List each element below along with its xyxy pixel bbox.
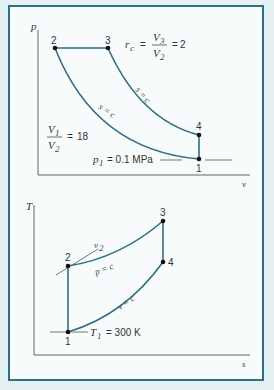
pv-diagram: p v 2 3 4 1 s = c s = c r c = V 3 V 2 = … bbox=[30, 20, 250, 189]
v2-label: v 2 bbox=[94, 240, 104, 253]
svg-text:p: p bbox=[92, 153, 99, 165]
ts-label-2: 2 bbox=[65, 252, 71, 263]
ts-point-4 bbox=[161, 260, 166, 265]
ts-process-4-1 bbox=[68, 262, 163, 332]
svg-text:2: 2 bbox=[180, 39, 186, 50]
svg-text:18: 18 bbox=[77, 131, 89, 142]
pv-label-3: 3 bbox=[105, 35, 111, 46]
svg-text:1: 1 bbox=[55, 128, 60, 138]
ts-label-3: 3 bbox=[160, 207, 166, 218]
svg-text:2: 2 bbox=[99, 243, 104, 253]
svg-text:c: c bbox=[130, 43, 134, 53]
pv-point-3 bbox=[106, 46, 111, 51]
ts-v2-line bbox=[56, 249, 98, 275]
ts-point-1 bbox=[66, 330, 71, 335]
pv-label-1: 1 bbox=[196, 163, 202, 174]
svg-text:=: = bbox=[172, 39, 178, 50]
svg-text:2: 2 bbox=[160, 52, 165, 62]
pv-point-4 bbox=[197, 133, 202, 138]
pv-y-axis-label: p bbox=[30, 20, 37, 32]
svg-text:v: v bbox=[94, 240, 98, 250]
ts-process-2-3 bbox=[68, 221, 163, 266]
pv-label-4: 4 bbox=[196, 121, 202, 132]
t1-label: T 1 = 300 K bbox=[90, 326, 141, 341]
pv-x-axis-label: v bbox=[242, 179, 246, 189]
ts-y-axis-label: T bbox=[26, 200, 33, 212]
ts-label-1: 1 bbox=[65, 336, 71, 347]
svg-text:1: 1 bbox=[97, 331, 102, 341]
svg-text:=: = bbox=[67, 131, 73, 142]
svg-text:3: 3 bbox=[159, 36, 165, 46]
svg-text:2: 2 bbox=[55, 144, 60, 154]
ts-x-axis-label: s bbox=[242, 359, 246, 369]
ts-diagram: T s 2 3 4 1 v 2 p = c v = c T 1 = 300 K bbox=[26, 200, 250, 369]
cutoff-ratio: r c = V 3 V 2 = 2 bbox=[125, 31, 186, 62]
svg-text:= 300 K: = 300 K bbox=[106, 327, 141, 338]
compression-ratio: V 1 V 2 = 18 bbox=[47, 123, 89, 154]
svg-text:=: = bbox=[140, 39, 146, 50]
p1-label: p 1 = 0.1 MPa bbox=[92, 153, 153, 168]
svg-text:1: 1 bbox=[99, 158, 104, 168]
pv-point-1 bbox=[197, 157, 202, 162]
ts-label-4: 4 bbox=[168, 257, 174, 268]
pv-process-3-4 bbox=[108, 48, 199, 135]
svg-text:= 0.1 MPa: = 0.1 MPa bbox=[107, 154, 153, 165]
svg-text:T: T bbox=[90, 326, 97, 338]
pv-label-2: 2 bbox=[51, 35, 57, 46]
ts-label-heat-addition: p = c bbox=[92, 261, 114, 277]
diesel-cycle-diagrams: p v 2 3 4 1 s = c s = c r c = V 3 V 2 = … bbox=[0, 0, 274, 390]
pv-point-2 bbox=[53, 46, 58, 51]
pv-process-1-2 bbox=[55, 48, 199, 159]
ts-point-2 bbox=[66, 264, 71, 269]
ts-point-3 bbox=[161, 219, 166, 224]
